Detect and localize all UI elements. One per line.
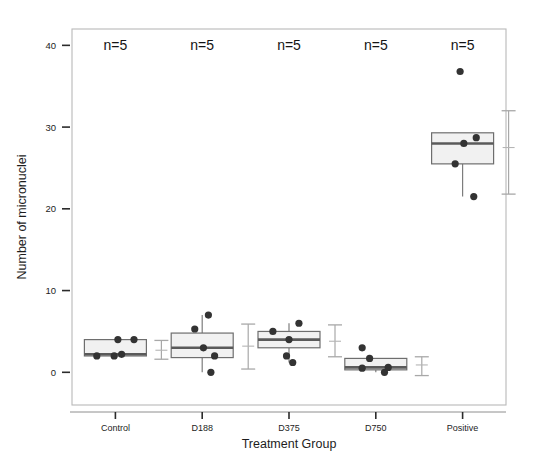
x-tick-label-d750: D750: [365, 423, 387, 433]
data-point: [200, 344, 207, 351]
chart-background: [0, 0, 534, 466]
annotation-d375: n=5: [277, 37, 301, 53]
data-point: [385, 364, 392, 371]
y-tick-label: 0: [51, 367, 56, 378]
annotation-positive: n=5: [451, 37, 475, 53]
box-body: [432, 133, 494, 164]
data-point: [118, 351, 125, 358]
data-point: [205, 311, 212, 318]
y-axis-title: Number of micronuclei: [15, 154, 29, 279]
data-point: [283, 352, 290, 359]
y-tick-label: 40: [45, 40, 56, 51]
data-point: [359, 365, 366, 372]
x-tick-label-positive: Positive: [447, 423, 479, 433]
data-point: [269, 328, 276, 335]
y-tick-label: 20: [45, 203, 56, 214]
x-axis-title: Treatment Group: [242, 437, 337, 451]
x-tick-label-control: Control: [101, 423, 130, 433]
data-point: [470, 193, 477, 200]
data-point: [93, 352, 100, 359]
data-point: [211, 352, 218, 359]
x-tick-label-d375: D375: [278, 423, 300, 433]
boxplot-chart: 010203040 ControlD188D375D750Positive n=…: [0, 0, 534, 466]
data-point: [111, 352, 118, 359]
data-point: [460, 140, 467, 147]
data-point: [114, 336, 121, 343]
annotation-control: n=5: [104, 37, 128, 53]
annotation-d188: n=5: [190, 37, 214, 53]
data-point: [130, 336, 137, 343]
data-point: [207, 369, 214, 376]
x-tick-label-d188: D188: [191, 423, 213, 433]
data-point: [457, 68, 464, 75]
data-point: [452, 160, 459, 167]
data-point: [289, 359, 296, 366]
data-point: [359, 344, 366, 351]
annotation-d750: n=5: [364, 37, 388, 53]
data-point: [473, 134, 480, 141]
data-point: [285, 336, 292, 343]
data-point: [295, 320, 302, 327]
data-point: [191, 325, 198, 332]
data-point: [366, 355, 373, 362]
chart-canvas: 010203040 ControlD188D375D750Positive n=…: [0, 0, 534, 466]
y-tick-label: 10: [45, 285, 56, 296]
y-tick-label: 30: [45, 122, 56, 133]
